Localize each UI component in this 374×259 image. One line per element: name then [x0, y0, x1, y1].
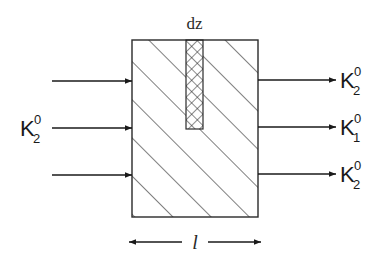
input-label-sup: 0 [34, 112, 41, 127]
slice-label: dz [186, 14, 203, 33]
input-label: K 0 2 [20, 112, 41, 146]
output-label-bottom: K 0 2 [340, 158, 361, 192]
output-label-top-sub: 2 [353, 83, 360, 98]
input-label-sub: 2 [33, 131, 40, 146]
output-arrows [258, 80, 336, 174]
output-label-top-sup: 0 [354, 64, 361, 79]
length-label: l [192, 231, 198, 253]
output-label-bottom-sup: 0 [354, 158, 361, 173]
input-arrows [52, 81, 132, 175]
output-label-middle-sup: 0 [354, 111, 361, 126]
length-dimension: l [129, 231, 261, 253]
output-label-top: K 0 2 [340, 64, 361, 98]
output-label-bottom-sub: 2 [353, 177, 360, 192]
output-label-middle: K 0 1 [340, 111, 361, 145]
slab [132, 40, 258, 217]
output-label-middle-sub: 1 [353, 130, 360, 145]
slice-dz [186, 40, 203, 129]
slab-diagram: dz K 0 2 K 0 2 K 0 1 K 0 2 l [0, 0, 374, 259]
